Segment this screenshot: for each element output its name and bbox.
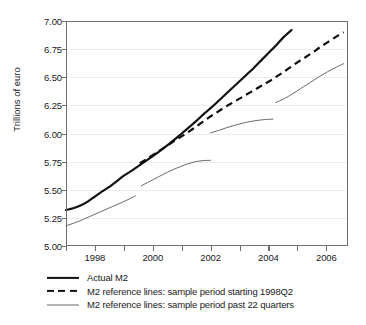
x-tick-label: 1998 <box>85 252 106 263</box>
y-tick-label: 6.25 <box>44 100 62 111</box>
x-tick-mark <box>95 246 96 251</box>
legend-item: M2 reference lines: sample period past 2… <box>46 298 356 312</box>
y-tick-label: 6.00 <box>44 128 62 139</box>
x-tick-label: 2000 <box>142 252 163 263</box>
x-tick-mark <box>240 246 241 251</box>
solid-thick-line-icon <box>46 272 80 284</box>
x-tick-label: 2006 <box>316 252 337 263</box>
y-tick-label: 6.50 <box>44 72 62 83</box>
y-tick-label: 5.25 <box>44 212 62 223</box>
x-axis-tick-labels: 1998 2000 2002 2004 2006 <box>66 252 348 266</box>
x-tick-mark <box>182 246 183 251</box>
chart-figure: Trillions of euro 7.00 6.75 6.50 6.25 6.… <box>0 0 366 325</box>
x-axis-tick-marks <box>66 246 348 251</box>
x-tick-mark <box>326 246 327 251</box>
y-tick-label: 5.50 <box>44 184 62 195</box>
x-tick-mark <box>66 246 67 251</box>
x-tick-label: 2004 <box>258 252 279 263</box>
solid-thin-line-icon <box>46 299 80 311</box>
x-tick-mark <box>124 246 125 251</box>
x-tick-mark <box>297 246 298 251</box>
legend-item-label: M2 reference lines: sample period starti… <box>87 286 293 297</box>
dashed-line-icon <box>46 285 80 297</box>
x-tick-label: 2002 <box>200 252 221 263</box>
y-tick-label: 7.00 <box>44 16 62 27</box>
y-tick-label: 5.75 <box>44 156 62 167</box>
x-tick-mark <box>268 246 269 251</box>
y-axis-label: Trillions of euro <box>11 40 22 160</box>
y-axis-tick-labels: 7.00 6.75 6.50 6.25 6.00 5.75 5.50 5.25 … <box>24 21 62 246</box>
plot-frame <box>66 21 348 246</box>
y-tick-label: 6.75 <box>44 44 62 55</box>
y-tick-label: 5.00 <box>44 241 62 252</box>
x-tick-mark <box>153 246 154 251</box>
chart-legend: Actual M2 M2 reference lines: sample per… <box>46 271 356 312</box>
legend-item-label: Actual M2 <box>87 272 128 283</box>
plot-area <box>66 21 348 246</box>
legend-item: M2 reference lines: sample period starti… <box>46 285 356 299</box>
x-tick-mark <box>211 246 212 251</box>
legend-item: Actual M2 <box>46 271 356 285</box>
legend-item-label: M2 reference lines: sample period past 2… <box>87 299 294 310</box>
